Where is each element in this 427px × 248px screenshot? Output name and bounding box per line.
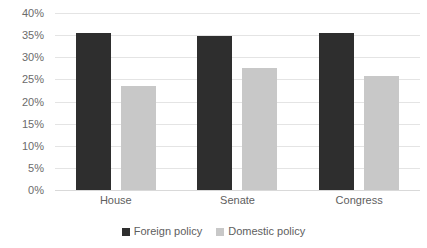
y-axis-tick-label: 30% xyxy=(22,52,44,63)
y-axis: 0%5%10%15%20%25%30%35%40% xyxy=(0,13,50,190)
bar-group xyxy=(55,13,177,190)
y-axis-tick-label: 15% xyxy=(22,118,44,129)
bars-layer xyxy=(55,13,420,190)
bar-group xyxy=(177,13,299,190)
legend-swatch-icon xyxy=(122,228,130,236)
legend-label: Domestic policy xyxy=(228,226,305,237)
bar xyxy=(121,86,156,190)
y-axis-tick-label: 25% xyxy=(22,74,44,85)
legend-label: Foreign policy xyxy=(134,226,202,237)
bar xyxy=(197,36,232,190)
x-axis-tick-label: Congress xyxy=(336,195,383,206)
bar xyxy=(319,33,354,190)
bar-chart: 0%5%10%15%20%25%30%35%40% HouseSenateCon… xyxy=(0,0,427,248)
x-axis-tick-label: House xyxy=(100,195,132,206)
bar xyxy=(76,33,111,190)
x-axis: HouseSenateCongress xyxy=(55,193,420,215)
chart-legend: Foreign policyDomestic policy xyxy=(0,226,427,237)
y-axis-tick-label: 10% xyxy=(22,140,44,151)
y-axis-tick-label: 20% xyxy=(22,96,44,107)
y-axis-tick-label: 5% xyxy=(28,162,44,173)
gridline xyxy=(55,190,420,191)
legend-swatch-icon xyxy=(216,228,224,236)
bar xyxy=(364,76,399,190)
x-axis-tick-label: Senate xyxy=(220,195,255,206)
legend-item[interactable]: Foreign policy xyxy=(122,226,202,237)
bar xyxy=(242,68,277,190)
legend-item[interactable]: Domestic policy xyxy=(216,226,305,237)
y-axis-tick-label: 40% xyxy=(22,8,44,19)
y-axis-tick-label: 35% xyxy=(22,30,44,41)
y-axis-tick-label: 0% xyxy=(28,185,44,196)
bar-group xyxy=(298,13,420,190)
